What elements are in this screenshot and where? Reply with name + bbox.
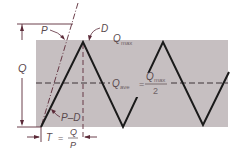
- inventory-sawtooth-diagram: Q P D Q max Q ave = Q max 2 P–D T = Q P: [0, 0, 248, 154]
- t-denominator: P: [70, 140, 76, 150]
- t-label: T: [46, 132, 53, 143]
- p-arrow-icon: [60, 35, 65, 40]
- q-arrow-down-icon: [20, 120, 24, 126]
- q-arrow-up-icon: [20, 25, 24, 31]
- q-ave-numerator-subscript: max: [154, 77, 165, 83]
- d-label: D: [101, 23, 108, 34]
- p-minus-d-label: P–D: [61, 112, 80, 123]
- t-arrow-left-icon: [84, 135, 90, 139]
- q-ave-equals: =: [139, 79, 144, 89]
- q-max-label: Q: [113, 33, 121, 44]
- q-max-subscript: max: [121, 40, 132, 46]
- q-dimension-label: Q: [18, 62, 27, 74]
- q-ave-label: Q: [112, 78, 120, 89]
- t-equals: =: [58, 133, 63, 143]
- t-arrow-right-icon: [34, 135, 40, 139]
- d-leader: [90, 28, 100, 37]
- q-ave-subscript: ave: [120, 84, 130, 90]
- q-ave-numerator: Q: [146, 71, 154, 82]
- p-label: P: [41, 25, 48, 36]
- t-numerator: Q: [70, 127, 77, 137]
- q-ave-denominator: 2: [153, 86, 158, 96]
